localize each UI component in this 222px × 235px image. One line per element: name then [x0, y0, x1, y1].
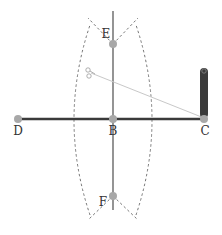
construction-canvas: D B C E F [0, 0, 222, 235]
point-d[interactable] [14, 115, 22, 123]
label-f: F [99, 195, 107, 209]
label-d: D [13, 124, 23, 138]
scissors-icon[interactable] [86, 68, 95, 78]
arc-right-ext-bottom [113, 196, 138, 220]
point-e[interactable] [109, 40, 117, 48]
label-e: E [102, 27, 111, 41]
point-f[interactable] [109, 192, 117, 200]
point-c[interactable] [200, 115, 208, 123]
label-c: C [200, 124, 209, 138]
pencil-icon[interactable] [200, 68, 208, 118]
compass-arm [91, 73, 204, 118]
point-b[interactable] [109, 115, 117, 123]
arc-right-ext-top [113, 18, 138, 44]
label-b: B [109, 124, 118, 138]
